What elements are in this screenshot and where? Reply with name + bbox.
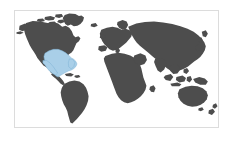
map-frame	[14, 10, 219, 128]
world-map-widget[interactable]	[0, 0, 234, 143]
world-map-svg[interactable]	[15, 11, 218, 127]
